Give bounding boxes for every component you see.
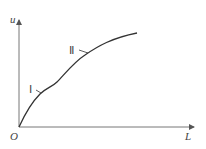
- y-axis-label: u: [10, 13, 16, 25]
- origin-label: O: [10, 130, 18, 142]
- x-axis-label: L: [185, 130, 191, 142]
- marker-I-label: Ⅰ: [29, 83, 32, 96]
- marker-II-label: Ⅱ: [69, 44, 74, 57]
